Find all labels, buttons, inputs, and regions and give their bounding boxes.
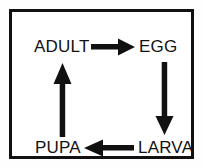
arrow-down-icon	[155, 62, 174, 135]
node-label-larva: LARVA	[138, 139, 193, 156]
life-cycle-diagram: ADULT EGG LARVA PUPA	[0, 0, 204, 168]
node-label-pupa: PUPA	[35, 139, 81, 156]
arrow-left-icon	[84, 139, 134, 157]
arrow-right-icon	[91, 38, 135, 56]
arrow-adult-to-egg	[91, 38, 135, 56]
arrow-pupa-to-adult	[53, 63, 72, 137]
diagram-frame: ADULT EGG LARVA PUPA	[9, 9, 194, 159]
node-label-egg: EGG	[139, 38, 177, 55]
arrow-egg-to-larva	[155, 62, 174, 135]
node-label-adult: ADULT	[34, 38, 89, 55]
arrow-larva-to-pupa	[84, 139, 134, 157]
arrow-up-icon	[53, 63, 72, 137]
